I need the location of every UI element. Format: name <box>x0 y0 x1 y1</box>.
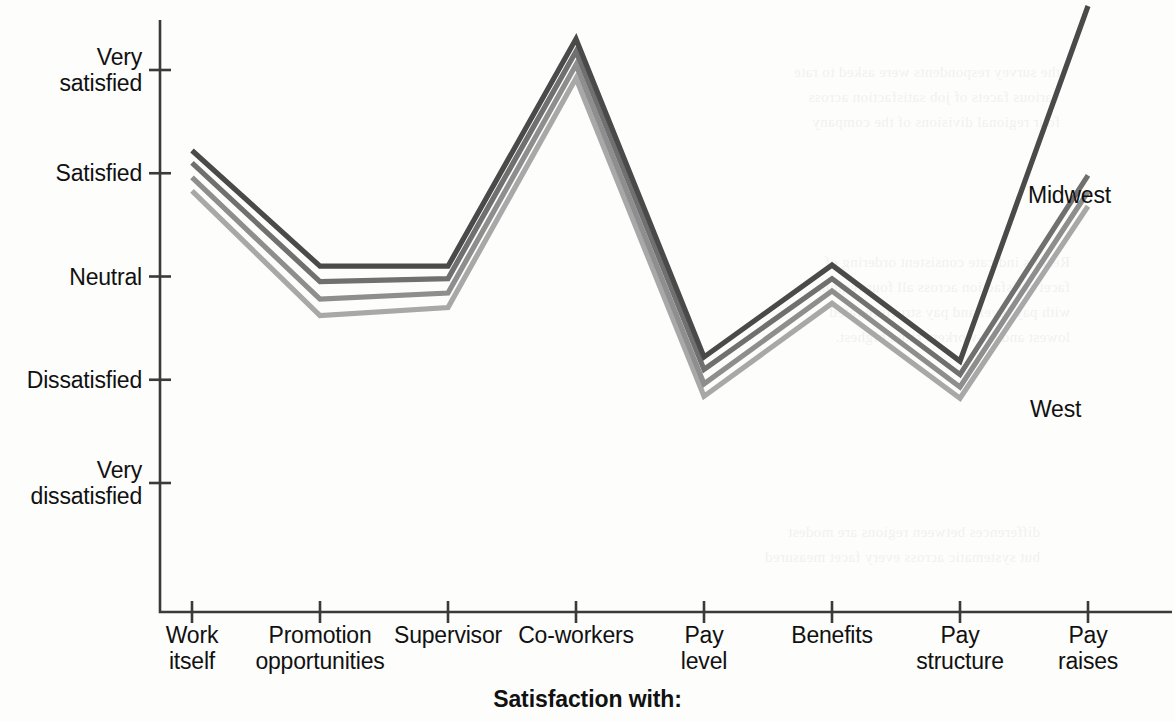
x-axis-label-6: Benefits <box>762 622 902 648</box>
y-axis-label-1: Very satisfied <box>59 44 142 96</box>
series-line-region-2 <box>192 51 1088 374</box>
plot-area <box>0 0 1175 721</box>
x-axis-label-4: Co-workers <box>506 622 646 648</box>
series-line-west <box>192 78 1088 398</box>
y-axis-label-3: Neutral <box>69 264 142 290</box>
series-line-midwest <box>192 6 1088 361</box>
series-lines <box>192 6 1088 398</box>
y-axis-label-4: Dissatisfied <box>27 367 142 393</box>
y-axis-label-2: Satisfied <box>56 160 142 186</box>
x-axis-label-5: Pay level <box>634 622 774 674</box>
line-chart: the survey respondents were asked to rat… <box>0 0 1175 721</box>
x-axis-title: Satisfaction with: <box>0 686 1175 713</box>
series-label-west: West <box>1030 396 1081 423</box>
series-line-region-3 <box>192 65 1088 387</box>
x-axis-label-8: Pay raises <box>1018 622 1158 674</box>
axes <box>160 20 1172 612</box>
x-axis-label-7: Pay structure <box>890 622 1030 674</box>
y-axis-label-5: Very dissatisfied <box>31 457 142 509</box>
series-label-midwest: Midwest <box>1028 182 1111 209</box>
x-axis-label-3: Supervisor <box>378 622 518 648</box>
